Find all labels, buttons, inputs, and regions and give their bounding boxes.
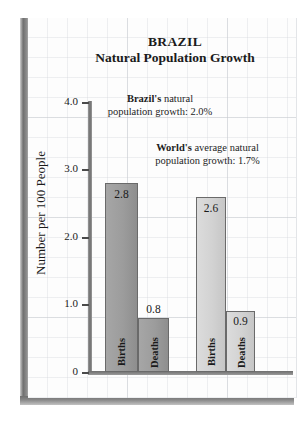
bar-value-world-deaths: 0.9 <box>226 315 255 327</box>
y-tick-label-4: 4.0 <box>44 95 78 107</box>
y-tick-mark-2 <box>82 237 89 239</box>
annotation-brazil: Brazil's natural population growth: 2.0% <box>80 93 240 119</box>
annotation-brazil-line2: population growth: 2.0% <box>80 106 240 119</box>
annotation-brazil-emphasis: Brazil's <box>127 93 161 104</box>
y-tick-mark-3 <box>82 169 89 171</box>
y-axis-title: Number per 100 People <box>33 138 49 288</box>
y-tick-label-3: 3.0 <box>44 162 78 174</box>
page-title: BRAZIL <box>60 34 290 50</box>
bar-category-world-births: Births <box>206 338 217 366</box>
annotation-world-line1-rest: average natural <box>192 142 259 153</box>
annotation-brazil-line1-rest: natural <box>161 93 193 104</box>
page-subtitle: Natural Population Growth <box>60 50 290 66</box>
bar-value-world-births: 2.6 <box>196 202 226 214</box>
chart-page: BRAZIL Natural Population Growth Brazil'… <box>0 0 306 421</box>
bar-category-world-deaths: Deaths <box>236 337 247 368</box>
annotation-world: World's average natural population growt… <box>120 142 295 168</box>
y-tick-label-2: 2.0 <box>44 230 78 242</box>
annotation-brazil-line1: Brazil's natural <box>80 93 240 106</box>
y-tick-mark-0 <box>82 372 89 374</box>
bar-category-brazil-deaths: Deaths <box>149 337 160 368</box>
bar-category-brazil-births: Births <box>116 338 127 366</box>
y-tick-label-0: 0 <box>44 365 78 377</box>
bar-value-brazil-deaths: 0.8 <box>138 303 169 315</box>
annotation-world-line2: population growth: 1.7% <box>120 155 295 168</box>
y-tick-mark-1 <box>82 304 89 306</box>
y-tick-mark-4 <box>82 102 89 104</box>
annotation-world-line1: World's average natural <box>120 142 295 155</box>
y-tick-label-1: 1.0 <box>44 297 78 309</box>
bar-value-brazil-births: 2.8 <box>105 188 138 200</box>
annotation-world-emphasis: World's <box>156 142 192 153</box>
chart-title-block: BRAZIL Natural Population Growth <box>60 34 290 66</box>
